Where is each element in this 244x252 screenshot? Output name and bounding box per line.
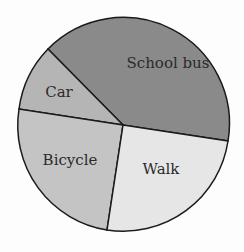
label-school-bus: School bus: [127, 54, 210, 72]
label-bicycle: Bicycle: [43, 151, 98, 169]
slice-walk: [107, 125, 228, 231]
slice-bicycle: [18, 109, 123, 230]
label-walk: Walk: [143, 160, 181, 178]
pie-chart: School bus Car Bicycle Walk: [0, 0, 244, 252]
label-car: Car: [45, 83, 73, 101]
